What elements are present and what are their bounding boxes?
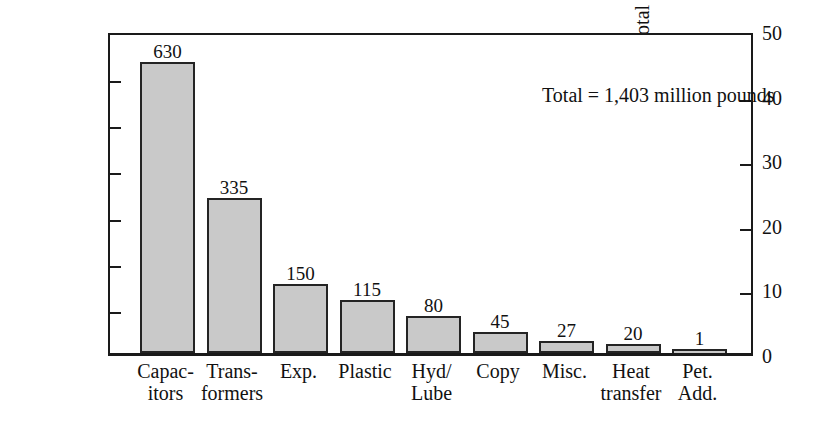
bar: 80 bbox=[406, 316, 461, 353]
bar-value-label: 80 bbox=[424, 296, 443, 315]
y-tick-label-right: 50 bbox=[762, 23, 782, 43]
bar-value-label: 27 bbox=[557, 321, 576, 340]
bar: 335 bbox=[207, 198, 262, 353]
y-tick-right bbox=[740, 164, 751, 166]
x-category-label: Pet. Add. bbox=[648, 361, 748, 404]
y-tick-left bbox=[110, 81, 121, 83]
y-tick-left bbox=[110, 312, 121, 314]
bar-value-label: 115 bbox=[353, 280, 381, 299]
bar: 1 bbox=[672, 349, 727, 353]
bar-value-label: 335 bbox=[220, 178, 249, 197]
y-tick-label-right: 20 bbox=[762, 217, 782, 237]
bar-value-label: 150 bbox=[286, 264, 315, 283]
y-tick-label-right: 30 bbox=[762, 152, 782, 172]
bar: 27 bbox=[539, 341, 594, 353]
bar-chart-figure: Millions of lbs. % total 630335150115804… bbox=[0, 0, 835, 429]
y-tick-label-right: 10 bbox=[762, 281, 782, 301]
bar-value-label: 1 bbox=[695, 329, 705, 348]
bar: 115 bbox=[340, 300, 395, 353]
bar-value-label: 630 bbox=[153, 42, 182, 61]
bar: 630 bbox=[140, 62, 195, 353]
bar: 150 bbox=[273, 284, 328, 353]
y-tick-label-right: 0 bbox=[762, 346, 772, 366]
y-tick-left bbox=[110, 173, 121, 175]
total-annotation: Total = 1,403 million pounds bbox=[542, 84, 775, 107]
bar-value-label: 45 bbox=[491, 312, 510, 331]
bar: 20 bbox=[606, 344, 661, 353]
y-tick-left bbox=[110, 220, 121, 222]
y-tick-left bbox=[110, 127, 121, 129]
y-tick-right bbox=[740, 229, 751, 231]
bar-value-label: 20 bbox=[624, 324, 643, 343]
bar: 45 bbox=[473, 332, 528, 353]
y-tick-left bbox=[110, 266, 121, 268]
plot-area: 630335150115804527201 Total = 1,403 mill… bbox=[108, 33, 753, 356]
y-tick-right bbox=[740, 293, 751, 295]
y-tick-label-right: 40 bbox=[762, 88, 782, 108]
